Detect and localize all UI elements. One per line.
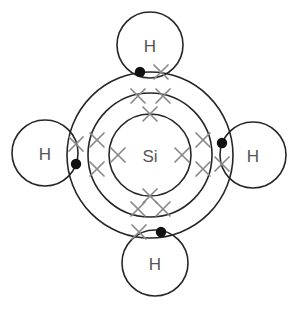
hydrogen-symbol-label-left: H [39, 145, 51, 164]
middle-shell-cross-bottom-left [131, 202, 145, 216]
inner-shell-cross-left [111, 148, 125, 162]
hydrogen-symbol-label-right: H [247, 147, 259, 166]
middle-shell-cross-bottom-right [156, 202, 170, 216]
silicon-symbol-label: Si [142, 147, 157, 166]
middle-shell-cross-left-lower [90, 162, 104, 176]
diagram-canvas: Si H H H H [0, 0, 299, 309]
middle-shell-cross-right-upper [196, 133, 210, 147]
hydrogen-symbol-label-top: H [144, 37, 156, 56]
inner-shell-cross-right [175, 148, 189, 162]
bond-dot-right [217, 138, 227, 148]
middle-shell-cross-left-upper [90, 133, 104, 147]
silane-dot-and-cross-diagram: Si H H H H [0, 0, 299, 309]
hydrogen-symbol-label-bottom: H [149, 255, 161, 274]
bond-dot-top [135, 67, 145, 77]
bond-dot-bottom [156, 227, 166, 237]
middle-shell-cross-right-lower [196, 162, 210, 176]
bond-dot-left [71, 159, 81, 169]
